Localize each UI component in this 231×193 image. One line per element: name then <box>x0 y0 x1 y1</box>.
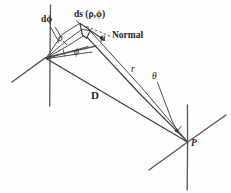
label-theta-normal: θ <box>101 34 105 43</box>
label-d-phi: dϕ <box>41 15 52 25</box>
label-theta-p: θ <box>152 72 157 82</box>
theta-p-leader <box>158 83 179 133</box>
segment-r <box>87 37 187 141</box>
segment-r-secondary <box>90 31 186 141</box>
label-point-p: P <box>191 139 197 149</box>
diagram-vector-layer <box>0 0 231 193</box>
label-ds-element: ds (ρ,ϕ) <box>74 10 105 20</box>
source-coordinate-axes <box>12 5 96 106</box>
ds-surface-element-patch <box>80 23 91 38</box>
label-normal: Normal <box>112 31 143 41</box>
segment-D <box>47 59 187 142</box>
label-D: D <box>91 90 99 101</box>
label-phi: ϕ <box>74 48 79 58</box>
label-r: r <box>131 65 135 75</box>
source-ray-fan <box>46 24 92 59</box>
label-rho: ρ <box>58 34 63 44</box>
field-point-coordinate-axes <box>149 105 226 190</box>
diagram-canvas: dϕ ds (ρ,ϕ) ρ ϕ θ Normal r θ D P <box>0 0 231 193</box>
